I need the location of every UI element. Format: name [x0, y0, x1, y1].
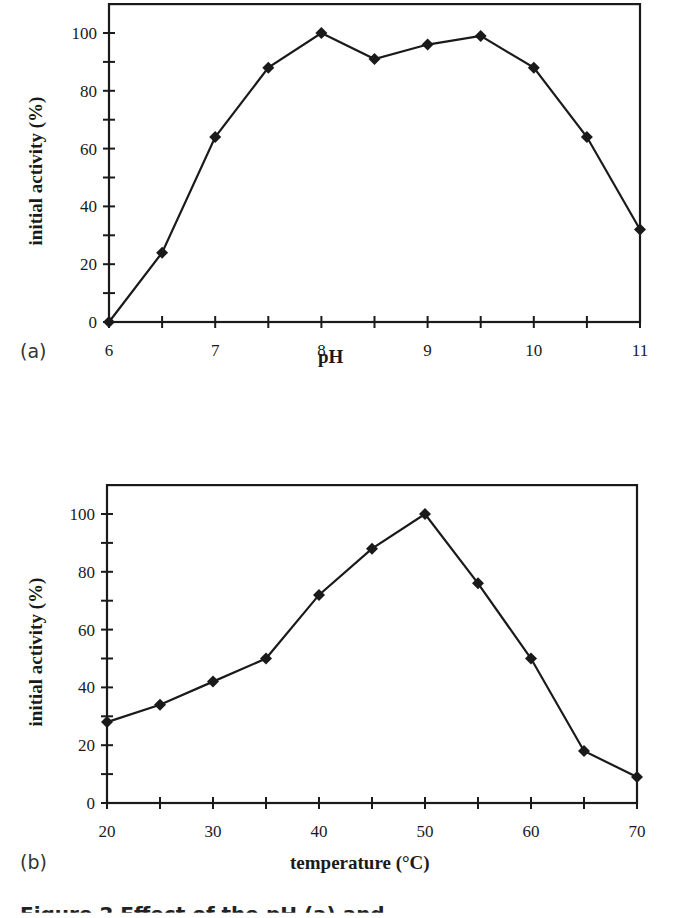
diamond-marker-icon: [101, 716, 113, 728]
diamond-marker-icon: [475, 30, 487, 42]
diamond-marker-icon: [631, 771, 643, 783]
panel-label-b: (b): [20, 851, 47, 873]
y-tick-label: 60: [80, 140, 97, 159]
x-tick-label: 10: [525, 341, 542, 360]
y-tick-label: 60: [78, 621, 95, 640]
x-tick-label: 7: [211, 341, 220, 360]
diamond-marker-icon: [422, 39, 434, 51]
y-tick-label: 40: [78, 678, 95, 697]
diamond-marker-icon: [369, 53, 381, 65]
y-axis-label: initial activity (%): [25, 578, 47, 727]
y-tick-label: 80: [80, 82, 97, 101]
x-tick-label: 40: [311, 822, 328, 841]
x-tick-label: 50: [417, 822, 434, 841]
y-tick-label: 100: [72, 24, 98, 43]
plot-frame: [109, 4, 640, 322]
diamond-marker-icon: [578, 745, 590, 757]
y-tick-label: 40: [80, 197, 97, 216]
y-tick-label: 80: [78, 563, 95, 582]
diamond-marker-icon: [154, 699, 166, 711]
x-tick-label: 6: [105, 341, 114, 360]
y-tick-label: 20: [78, 736, 95, 755]
x-axis-label-b: temperature (°C): [290, 852, 430, 874]
diamond-marker-icon: [315, 27, 327, 39]
x-tick-label: 60: [523, 822, 540, 841]
data-line: [109, 33, 640, 322]
chart-temperature: 020406080100203040506070initial activity…: [0, 460, 678, 860]
x-tick-label: 70: [629, 822, 646, 841]
x-tick-label: 11: [632, 341, 648, 360]
x-tick-label: 9: [423, 341, 432, 360]
x-tick-label: 20: [99, 822, 116, 841]
plot-frame: [107, 485, 637, 803]
y-tick-label: 0: [89, 313, 98, 332]
x-axis-label-a: pH: [318, 346, 343, 368]
x-tick-label: 30: [205, 822, 222, 841]
y-axis-label: initial activity (%): [25, 97, 47, 246]
y-tick-label: 20: [80, 255, 97, 274]
chart-ph: 02040608010067891011initial activity (%): [0, 0, 678, 400]
y-tick-label: 0: [87, 794, 96, 813]
diamond-marker-icon: [207, 676, 219, 688]
panel-label-a: (a): [20, 340, 46, 362]
figure-caption: Figure 2 Effect of the pH (a) and: [20, 902, 385, 918]
y-tick-label: 100: [70, 505, 96, 524]
diamond-marker-icon: [634, 224, 646, 236]
